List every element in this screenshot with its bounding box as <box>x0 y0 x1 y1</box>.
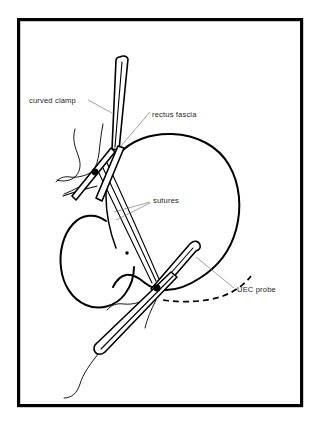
surgical-figure: curved clamp rectus fascia sutures UEC p… <box>0 0 320 426</box>
label-rectus-fascia: rectus fascia <box>152 110 197 119</box>
label-uec-probe: UEC probe <box>237 285 276 294</box>
lower-knot <box>153 284 160 291</box>
label-curved-clamp: curved clamp <box>29 96 76 105</box>
figure-canvas: curved clamp rectus fascia sutures UEC p… <box>0 0 320 426</box>
label-sutures: sutures <box>153 196 179 205</box>
suture-bead <box>125 251 128 254</box>
upper-knot <box>92 169 99 176</box>
figure-background <box>0 0 320 426</box>
